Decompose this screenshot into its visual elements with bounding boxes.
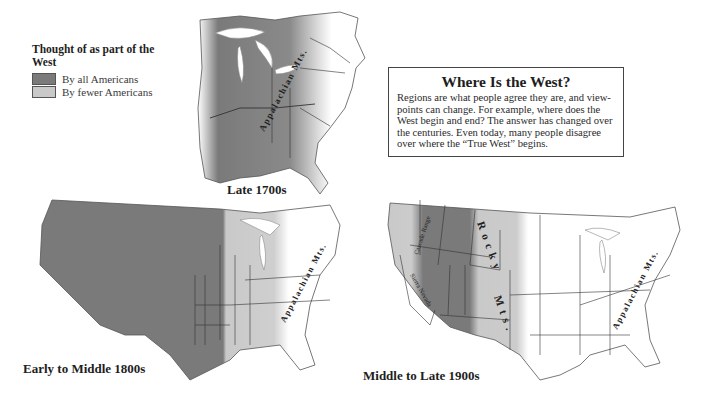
map-label-early-middle-1800s: Early to Middle 1800s xyxy=(23,361,145,377)
legend-swatch-dark xyxy=(32,73,56,85)
map-late-1700s: Appalachian Mts. xyxy=(180,8,390,203)
map-label-middle-late-1900s: Middle to Late 1900s xyxy=(363,368,480,384)
map-middle-late-1900s: Rocky Mts. Cascade Range Sierra Nevada A… xyxy=(380,195,700,395)
legend-swatch-light xyxy=(32,86,56,98)
legend-item-fewer: By fewer Americans xyxy=(32,85,152,98)
legend-item-all: By all Americans xyxy=(32,72,138,85)
info-box: Where Is the West? Regions are what peop… xyxy=(388,67,624,157)
legend-label: By all Americans xyxy=(62,73,138,85)
legend-label: By fewer Americans xyxy=(62,86,152,98)
info-body: Regions are what people agree they are, … xyxy=(397,92,615,150)
legend-title: Thought of as part of the West xyxy=(32,43,162,69)
info-title: Where Is the West? xyxy=(397,73,615,91)
